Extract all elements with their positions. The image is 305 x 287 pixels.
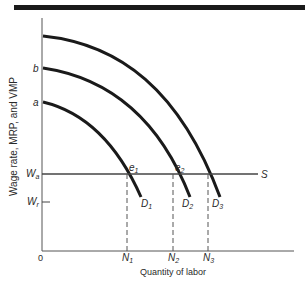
s-label: S bbox=[261, 169, 268, 180]
n2-label: N2 bbox=[168, 252, 179, 264]
b-label: b bbox=[33, 63, 39, 74]
d3-label: D3 bbox=[212, 198, 223, 210]
d2-label: D2 bbox=[182, 198, 193, 210]
n3-label: N3 bbox=[203, 252, 214, 264]
a-label: a bbox=[33, 97, 39, 108]
x-axis-label: Quantity of labor bbox=[140, 267, 206, 277]
origin-label: 0 bbox=[38, 253, 43, 263]
wr-label: Wr bbox=[27, 196, 39, 208]
top-rule bbox=[14, 5, 305, 10]
e2-label: e2 bbox=[175, 162, 185, 174]
demand-curve-d1 bbox=[43, 102, 141, 197]
demand-curve-d2 bbox=[43, 68, 190, 197]
labor-market-chart: Wage rate, MRP, and VMP b a Wa Wr e1 e2 … bbox=[0, 0, 305, 287]
d1-label: D1 bbox=[141, 198, 152, 210]
y-axis-label: Wage rate, MRP, and VMP bbox=[8, 77, 19, 196]
n1-label: N1 bbox=[122, 252, 133, 264]
wa-label: Wa bbox=[26, 168, 39, 180]
e1-label: e1 bbox=[129, 162, 139, 174]
